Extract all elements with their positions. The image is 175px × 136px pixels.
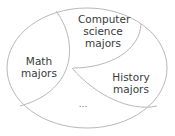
other-label: ...: [68, 98, 98, 110]
region-label-cs: Computer science majors: [78, 13, 128, 49]
cs-label-line-2: science: [78, 25, 128, 37]
history-label-line-1: History: [111, 71, 151, 83]
region-label-history: History majors: [111, 71, 151, 95]
region-label-math: Math majors: [20, 55, 58, 79]
cs-label-line-3: majors: [78, 37, 128, 49]
region-label-other: ...: [68, 98, 98, 110]
math-label-line-2: majors: [20, 67, 58, 79]
cs-label-line-1: Computer: [78, 13, 128, 25]
history-label-line-2: majors: [111, 83, 151, 95]
math-label-line-1: Math: [20, 55, 58, 67]
